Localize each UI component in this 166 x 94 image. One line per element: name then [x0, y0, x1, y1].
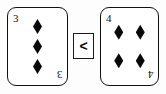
card-right-rank-bottom-right: 4	[148, 69, 154, 80]
diamond-pip-icon	[136, 25, 145, 40]
diamond-pip-icon	[33, 39, 42, 54]
card-left-rank-bottom-right: 3	[57, 69, 63, 80]
playing-card-left[interactable]: 3 3	[7, 7, 68, 86]
comparison-operator-box[interactable]: <	[73, 33, 94, 59]
diamond-pip-icon	[114, 53, 123, 68]
diamond-pip-icon	[114, 25, 123, 40]
diamond-pip-icon	[136, 53, 145, 68]
less-than-icon: <	[79, 39, 87, 53]
card-comparison-scene: 3 3 < 4 4	[0, 0, 166, 94]
diamond-pip-icon	[33, 19, 42, 34]
playing-card-right[interactable]: 4 4	[100, 7, 159, 86]
diamond-pip-icon	[33, 59, 42, 74]
